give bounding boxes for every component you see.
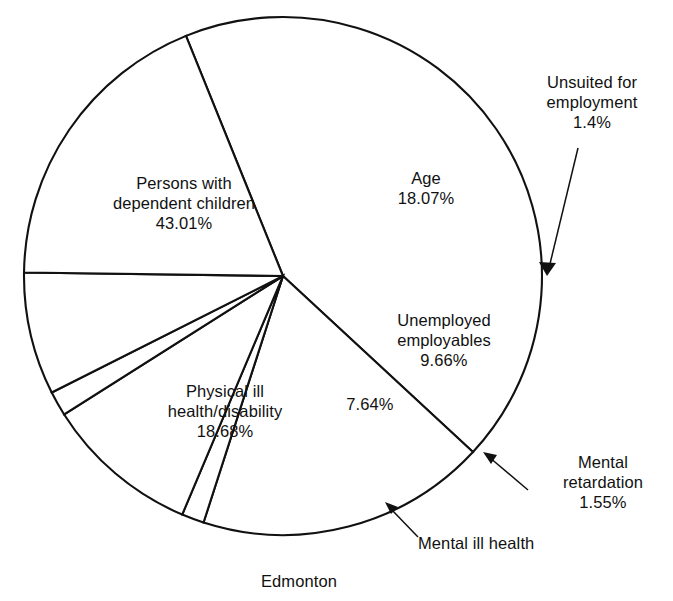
slice-label-mental-ill-health: Mental ill health [418, 533, 598, 553]
slice-label-unsuited-for-employment: Unsuited for employment 1.4% [512, 72, 672, 132]
leader-unsuited-for-employment [539, 148, 578, 276]
chart-caption: Edmonton [219, 571, 379, 591]
slice-label-persons-with-dependent-children: Persons with dependent children 43.01% [76, 173, 292, 233]
slice-label-unemployed-employables: Unemployed employables 9.66% [358, 310, 530, 370]
slice-label-unlabeled-percentage: 7.64% [322, 394, 418, 414]
slice-label-age: Age 18.07% [352, 168, 500, 208]
pie-slices [24, 17, 542, 535]
slice-label-physical-ill-health-disability: Physical ill health/disability 18.68% [130, 381, 320, 441]
leader-mental-retardation [483, 452, 528, 490]
pie-chart: Persons with dependent children 43.01% A… [0, 0, 673, 601]
slice-label-mental-retardation: Mental retardation 1.55% [534, 452, 672, 512]
